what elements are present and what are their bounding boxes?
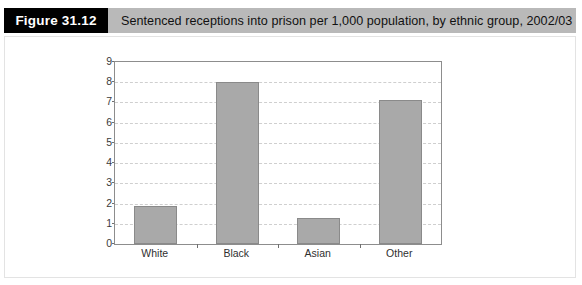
x-axis-label-other: Other — [386, 247, 412, 259]
y-axis-tick-labels: 0123456789 — [90, 61, 112, 243]
x-axis-label-white: White — [141, 247, 168, 259]
x-axis-label-black: Black — [223, 247, 249, 259]
bar-white — [134, 206, 177, 244]
y-axis-tick-label: 4 — [90, 156, 112, 168]
figure-container: Figure 31.12 Sentenced receptions into p… — [0, 0, 582, 285]
y-axis-tick-label: 9 — [90, 55, 112, 67]
y-axis-tick-label: 2 — [90, 197, 112, 209]
y-axis-tick-label: 8 — [90, 75, 112, 87]
bar-asian — [297, 218, 340, 244]
chart-card: 0123456789 WhiteBlackAsianOther — [4, 36, 576, 278]
figure-number-box: Figure 31.12 — [4, 8, 108, 33]
x-axis-label-asian: Asian — [305, 247, 331, 259]
figure-caption: Sentenced receptions into prison per 1,0… — [108, 8, 580, 33]
bars-layer — [115, 62, 441, 244]
y-axis-tick-label: 6 — [90, 116, 112, 128]
y-axis-tick-label: 1 — [90, 217, 112, 229]
figure-number-label: Figure 31.12 — [15, 13, 96, 28]
y-axis-tick-label: 5 — [90, 136, 112, 148]
y-axis-tick-label: 0 — [90, 237, 112, 249]
x-axis-category-labels: WhiteBlackAsianOther — [114, 247, 440, 265]
y-axis-tick-label: 3 — [90, 176, 112, 188]
bar-black — [216, 82, 259, 244]
y-axis-tick-label: 7 — [90, 95, 112, 107]
figure-header: Figure 31.12 Sentenced receptions into p… — [4, 8, 576, 33]
bar-other — [379, 100, 422, 244]
plot-area — [114, 61, 442, 245]
